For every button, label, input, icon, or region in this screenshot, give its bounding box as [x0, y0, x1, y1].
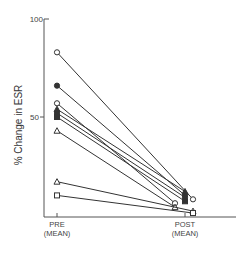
- open-square-marker-icon: [191, 211, 196, 216]
- open-triangle-marker-icon: [54, 179, 60, 185]
- open-circle-marker-icon: [54, 50, 59, 55]
- x-label-post-line1: POST: [175, 220, 196, 229]
- y-tick-label-100: 100: [30, 15, 44, 24]
- series-line: [57, 103, 175, 203]
- series-line: [57, 52, 193, 199]
- series-subject-6: [55, 115, 188, 204]
- series-subject-5: [54, 110, 187, 199]
- filled-circle-marker-icon: [54, 83, 59, 88]
- filled-triangle-marker-icon: [182, 188, 188, 194]
- series-layer: [54, 50, 196, 216]
- series-line: [57, 117, 185, 201]
- x-label-pre-line1: PRE: [49, 220, 64, 229]
- esr-change-chart: 100 50 PRE (MEAN) POST (MEAN) % Change i…: [0, 0, 243, 253]
- x-label-post-line2: (MEAN): [172, 229, 199, 238]
- y-tick-label-50: 50: [30, 113, 39, 122]
- open-circle-marker-icon: [54, 101, 59, 106]
- series-subject-4: [54, 106, 188, 194]
- open-triangle-marker-icon: [54, 128, 60, 134]
- open-circle-marker-icon: [190, 197, 195, 202]
- open-square-marker-icon: [55, 193, 60, 198]
- filled-square-marker-icon: [183, 199, 188, 204]
- series-line: [57, 113, 185, 197]
- x-label-pre-line2: (MEAN): [44, 229, 71, 238]
- series-line: [57, 131, 175, 207]
- filled-square-marker-icon: [55, 115, 60, 120]
- series-line: [57, 182, 193, 211]
- y-axis-title: % Change in ESR: [13, 85, 24, 166]
